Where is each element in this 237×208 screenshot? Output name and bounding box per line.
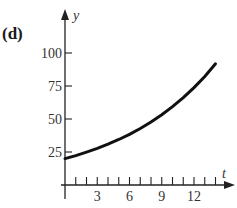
axes	[61, 9, 235, 199]
x-tick-label: 9	[158, 189, 165, 204]
ticks	[65, 53, 216, 185]
x-tick-label: 12	[187, 189, 201, 204]
y-axis-arrow-icon	[61, 9, 69, 20]
y-axis-label: y	[71, 8, 80, 23]
x-axis-label: t	[222, 166, 227, 181]
chart: yt36912255075100	[0, 0, 237, 208]
data-curve	[65, 64, 216, 159]
y-tick-label: 50	[48, 112, 62, 127]
y-tick-label: 25	[48, 145, 62, 160]
y-tick-label: 100	[41, 46, 62, 61]
y-tick-label: 75	[48, 79, 62, 94]
tick-labels: yt36912255075100	[41, 8, 227, 204]
x-tick-label: 6	[126, 189, 133, 204]
x-tick-label: 3	[94, 189, 101, 204]
x-axis-arrow-icon	[224, 181, 235, 189]
